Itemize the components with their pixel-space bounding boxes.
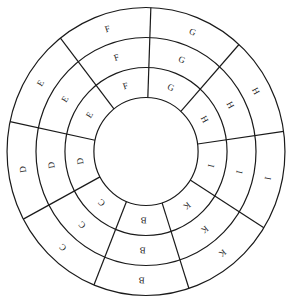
- inner-circle: [94, 98, 198, 206]
- sector-boundary: [190, 180, 264, 228]
- sector-label-c-ring-1: C: [96, 197, 107, 208]
- sector-label-f-ring-1: F: [121, 80, 129, 91]
- sector-label-c-ring-3: C: [57, 242, 68, 253]
- sector-boundaries: [10, 8, 284, 289]
- sector-label-g-ring-2: G: [177, 54, 187, 66]
- sector-label-i-ring-2: I: [234, 170, 244, 175]
- sector-label-h-ring-2: H: [224, 100, 236, 111]
- sector-label-k-ring-1: K: [181, 200, 193, 212]
- sector-boundary: [23, 177, 100, 219]
- sector-label-d-ring-2: D: [46, 161, 57, 169]
- sector-label-b-ring-3: B: [138, 275, 144, 285]
- sector-label-i-ring-3: I: [263, 176, 273, 181]
- sector-label-g-ring-1: G: [166, 82, 176, 94]
- sector-wheel-diagram: HHHGGGFFFEEEDDDCCCBBBKKKIII: [0, 0, 288, 299]
- sector-label-i-ring-1: I: [206, 163, 216, 168]
- sector-label-e-ring-2: E: [59, 94, 71, 104]
- sector-label-c-ring-2: C: [76, 219, 87, 230]
- sector-label-k-ring-3: K: [217, 247, 229, 259]
- sector-label-d-ring-3: D: [17, 165, 28, 173]
- ring-1: [65, 68, 227, 236]
- sector-label-h-ring-1: H: [199, 114, 211, 125]
- sector-boundary: [162, 203, 189, 289]
- sector-boundary: [94, 202, 127, 285]
- sector-boundary: [10, 122, 95, 141]
- sector-label-d-ring-1: D: [75, 157, 86, 165]
- sector-labels: HHHGGGFFFEEEDDDCCCBBBKKKIII: [17, 23, 273, 285]
- sector-boundary: [148, 8, 151, 98]
- sector-label-f-ring-3: F: [104, 23, 112, 34]
- sector-label-h-ring-3: H: [250, 86, 262, 97]
- sector-label-b-ring-2: B: [139, 245, 145, 255]
- sector-label-e-ring-3: E: [35, 78, 47, 88]
- sector-label-f-ring-2: F: [113, 52, 121, 63]
- sector-boundary: [198, 131, 284, 144]
- sector-label-e-ring-1: E: [84, 110, 96, 120]
- sector-label-k-ring-2: K: [199, 224, 211, 236]
- sector-label-g-ring-3: G: [188, 26, 198, 38]
- sector-label-b-ring-1: B: [140, 215, 146, 225]
- ring-2: [36, 38, 256, 266]
